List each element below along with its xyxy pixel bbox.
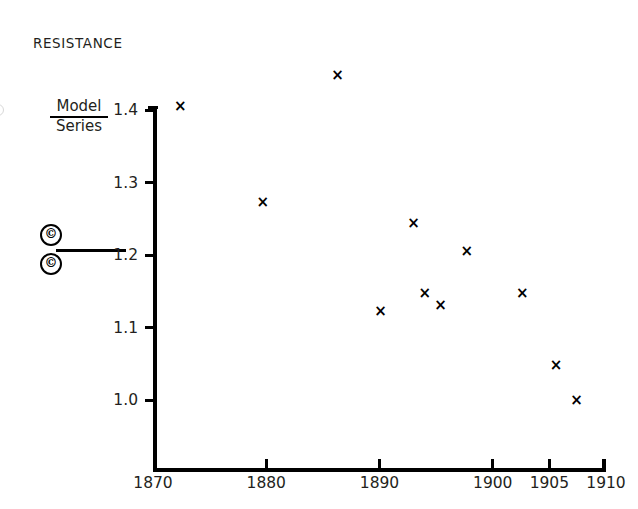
y-axis-tick-label: 1.4 [92, 101, 138, 119]
data-point-marker: × [433, 298, 448, 313]
x-axis-tick-label: 1870 [118, 474, 188, 492]
y-axis-tick-label: 1.3 [92, 174, 138, 192]
y-axis-tick-label: 1.2 [92, 246, 138, 264]
x-axis-tick-label: 1910 [571, 474, 638, 492]
plot-area: 1.01.11.21.31.4187018801890190019051910×… [0, 0, 638, 509]
y-axis-tick-label: 1.0 [92, 391, 138, 409]
data-point-marker: × [549, 358, 564, 373]
y-axis-line [153, 106, 157, 472]
data-point-marker: × [255, 195, 270, 210]
x-axis-tick [378, 459, 381, 469]
data-point-marker: × [173, 99, 188, 114]
y-axis-tick [145, 254, 155, 257]
data-point-marker: × [417, 286, 432, 301]
data-point-marker: × [569, 393, 584, 408]
data-point-marker: × [373, 304, 388, 319]
y-axis-tick [145, 399, 155, 402]
y-axis-tick [145, 326, 155, 329]
data-point-marker: × [330, 68, 345, 83]
y-axis-tick [145, 181, 155, 184]
data-point-marker: × [406, 216, 421, 231]
x-axis-right-cap [602, 459, 606, 471]
y-axis-tick [145, 109, 155, 112]
chart-figure: RESISTANCE Model Series © © 1.01.11.21.3… [0, 0, 638, 509]
x-axis-tick [548, 459, 551, 469]
x-axis-tick [265, 459, 268, 469]
data-point-marker: × [515, 286, 530, 301]
y-axis-tick-label: 1.1 [92, 319, 138, 337]
x-axis-tick-label: 1890 [345, 474, 415, 492]
data-point-marker: × [459, 244, 474, 259]
x-axis-tick-label: 1880 [231, 474, 301, 492]
x-axis-tick [491, 459, 494, 469]
